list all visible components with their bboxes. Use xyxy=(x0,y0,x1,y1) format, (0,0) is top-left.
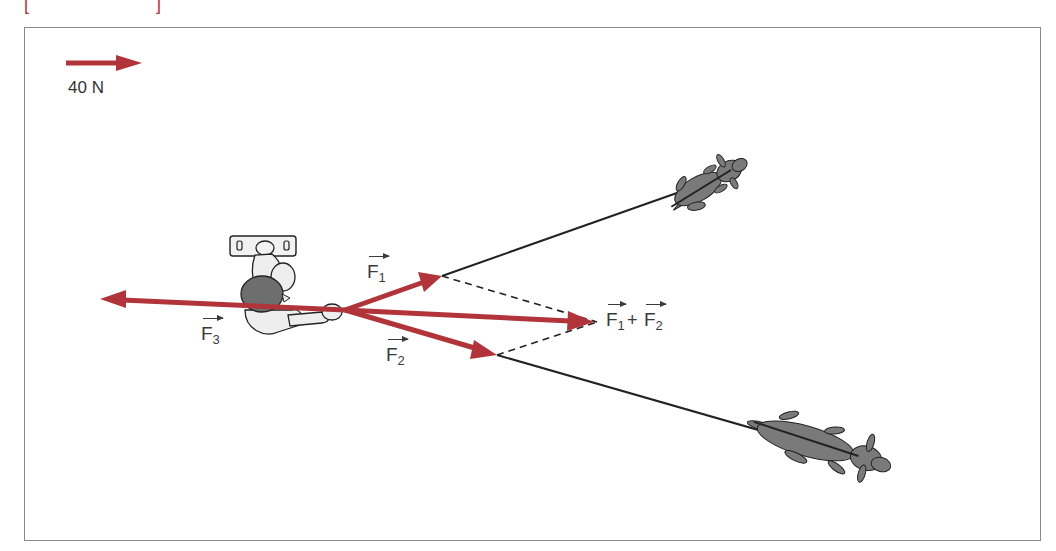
force-arrow-F3 xyxy=(100,290,345,310)
label-resultant-b-symbol: F xyxy=(644,309,656,330)
dog-top-illustration xyxy=(660,144,757,223)
label-F2-symbol: F xyxy=(386,344,398,365)
label-F1-symbol: F xyxy=(367,261,379,282)
vector-arrow-icon xyxy=(203,318,223,319)
label-F3-sub: 3 xyxy=(213,332,220,347)
label-resultant-b-sub: 2 xyxy=(656,318,663,333)
person-illustration xyxy=(230,236,342,334)
label-resultant-a-sub: 1 xyxy=(618,318,625,333)
scale-arrow xyxy=(66,55,142,71)
scale-label: 40 N xyxy=(68,78,104,98)
vector-arrow-icon xyxy=(608,304,626,305)
label-F3-symbol: F xyxy=(201,323,213,344)
label-F1-sub: 1 xyxy=(379,270,386,285)
dog-bottom-illustration xyxy=(740,397,899,489)
vector-arrow-icon xyxy=(369,256,389,257)
label-F2-sub: 2 xyxy=(398,353,405,368)
force-arrow-F1 xyxy=(345,272,442,310)
vector-arrow-icon xyxy=(388,339,408,340)
label-resultant-plus: + xyxy=(627,311,638,329)
label-resultant-a-symbol: F xyxy=(606,309,618,330)
force-diagram xyxy=(0,0,1056,551)
vector-arrow-icon xyxy=(646,304,666,305)
